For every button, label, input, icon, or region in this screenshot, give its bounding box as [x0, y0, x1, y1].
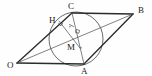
- point-label-O: O: [7, 60, 14, 70]
- point-label-B: B: [138, 5, 144, 15]
- segment-OA: [17, 63, 84, 64]
- diagonal-CA: [72, 13, 84, 64]
- right-angle-marker-CA: [76, 30, 80, 34]
- segment-AB: [84, 14, 133, 64]
- geometry-figure-container: × × O A B C H M: [0, 0, 152, 76]
- point-label-C: C: [68, 1, 74, 11]
- geometry-diagram: × × O A B C H M: [0, 0, 152, 76]
- segment-CO: [17, 13, 72, 63]
- tick-label-upper: ×: [69, 24, 72, 29]
- point-label-M: M: [67, 42, 75, 52]
- segment-BC: [72, 13, 133, 14]
- inscribed-circle: [49, 12, 103, 66]
- point-label-A: A: [81, 66, 88, 76]
- diagonal-OB: [17, 14, 133, 63]
- point-label-H: H: [49, 15, 56, 25]
- tick-label-lower: ×: [80, 45, 83, 50]
